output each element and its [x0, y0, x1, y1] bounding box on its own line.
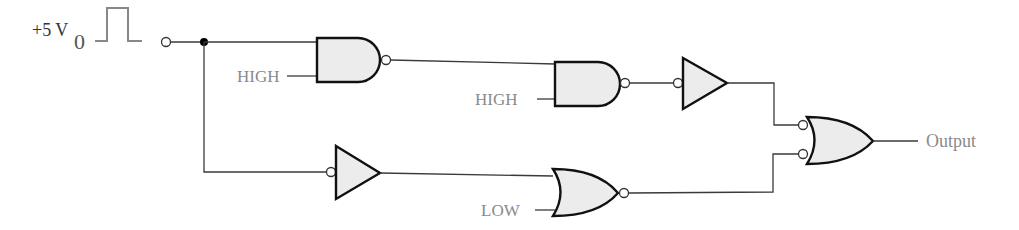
source-label: +5 V 0 — [32, 20, 85, 54]
voltage-label: +5 V — [32, 20, 68, 40]
nand-gate-1 — [317, 38, 380, 82]
low-label: LOW — [481, 201, 521, 220]
inversion-bubble — [621, 79, 630, 88]
high-label-1: HIGH — [237, 67, 280, 86]
inverter-bottom — [336, 146, 380, 199]
input-terminal — [162, 38, 171, 47]
nand-gate-2 — [555, 62, 620, 106]
or-gate-output — [807, 117, 873, 164]
inverter-top — [683, 58, 727, 109]
inversion-bubble — [674, 79, 683, 88]
inversion-bubble — [799, 121, 808, 130]
nor-gate — [553, 169, 618, 216]
pulse-icon — [95, 8, 142, 41]
inversion-bubble — [799, 150, 808, 159]
voltage-subscript: 0 — [74, 29, 85, 54]
wire — [380, 173, 553, 176]
inversion-bubble — [382, 56, 391, 65]
wire — [391, 60, 556, 64]
inversion-bubble — [620, 189, 629, 198]
high-label-2: HIGH — [475, 90, 518, 109]
wire — [727, 83, 798, 125]
output-label: Output — [926, 131, 976, 151]
logic-circuit-diagram: +5 V 0 HIGH HIGH LOW Output — [0, 0, 1019, 230]
wire — [629, 154, 799, 193]
inversion-bubble — [327, 168, 336, 177]
wire — [204, 42, 326, 172]
